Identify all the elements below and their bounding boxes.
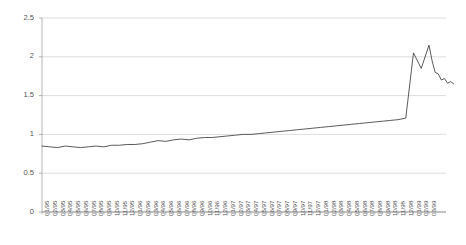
chart-container: 00.511.522.5 01/9502/9503/9504/9505/9506…	[0, 0, 466, 245]
x-axis-tick-label: 12/96	[222, 201, 228, 216]
x-axis-tick-label: 09/97	[292, 201, 298, 216]
x-axis-tick-label: 05/96	[168, 201, 174, 216]
x-axis-tick-label: 11/96	[214, 201, 220, 216]
x-axis-tick-label: 12/95	[129, 201, 135, 216]
x-axis-tick-label: 11/97	[307, 201, 313, 216]
x-axis-tick-label: 09/95	[106, 201, 112, 216]
x-axis-tick-label: 04/97	[253, 201, 259, 216]
x-axis-tick-label: 01/97	[230, 201, 236, 216]
x-axis-tick-label: 03/96	[153, 201, 159, 216]
x-axis-tick-label: 05/97	[261, 201, 267, 216]
x-axis-tick-label: 08/97	[284, 201, 290, 216]
x-axis-tick-label: 06/96	[176, 201, 182, 216]
x-axis-tick-label: 01/98	[323, 201, 329, 216]
x-axis-tick-label: 05/95	[75, 201, 81, 216]
x-axis-tick-label: 03/99	[431, 201, 437, 216]
x-axis-tick-label: 02/99	[423, 201, 429, 216]
x-axis-tick-label: 11/98	[400, 201, 406, 216]
x-axis-tick-label: 08/98	[377, 201, 383, 216]
x-axis-tick-label: 03/98	[338, 201, 344, 216]
x-axis-tick-label: 03/97	[245, 201, 251, 216]
x-axis-tick-label: 12/97	[315, 201, 321, 216]
x-axis-tick-label: 05/98	[354, 201, 360, 216]
x-axis-tick-label: 04/95	[67, 201, 73, 216]
x-axis-tick-label: 06/95	[83, 201, 89, 216]
x-axis-tick-label: 07/97	[276, 201, 282, 216]
x-axis-tick-label: 08/95	[98, 201, 104, 216]
x-axis-tick-label: 10/98	[392, 201, 398, 216]
x-axis-tick-label: 09/96	[199, 201, 205, 216]
x-axis-tick-label: 07/96	[184, 201, 190, 216]
x-axis-tick-label: 01/96	[137, 201, 143, 216]
x-axis-tick-label: 02/96	[145, 201, 151, 216]
x-axis-labels: 01/9502/9503/9504/9505/9506/9507/9508/95…	[0, 0, 466, 245]
x-axis-tick-label: 08/96	[191, 201, 197, 216]
x-axis-tick-label: 07/98	[369, 201, 375, 216]
x-axis-tick-label: 06/98	[362, 201, 368, 216]
x-axis-tick-label: 04/98	[346, 201, 352, 216]
x-axis-tick-label: 01/95	[44, 201, 50, 216]
x-axis-tick-label: 02/98	[331, 201, 337, 216]
x-axis-tick-label: 04/96	[160, 201, 166, 216]
x-axis-tick-label: 12/98	[408, 201, 414, 216]
x-axis-tick-label: 10/95	[114, 201, 120, 216]
x-axis-tick-label: 02/95	[52, 201, 58, 216]
